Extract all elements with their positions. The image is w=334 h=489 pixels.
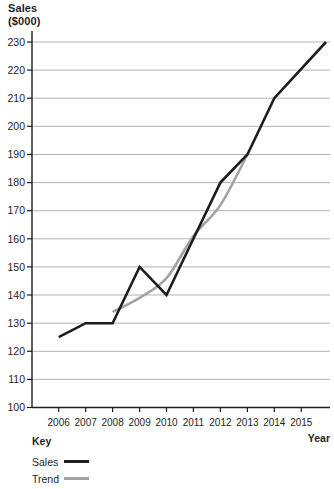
legend-label-trend: Trend — [32, 473, 63, 485]
y-tick-label: 120 — [7, 345, 25, 357]
series-line-sales — [59, 42, 326, 337]
y-tick-label: 110 — [8, 373, 25, 385]
y-tick-label: 140 — [7, 289, 25, 301]
y-tick-label: 170 — [7, 204, 25, 216]
y-tick-label: 130 — [7, 317, 25, 329]
x-tick-label: 2014 — [263, 417, 286, 428]
y-tick-label: 160 — [7, 233, 25, 245]
x-tick-label: 2008 — [101, 417, 124, 428]
y-tick-label: 180 — [7, 176, 25, 188]
legend-title: Key — [32, 435, 89, 447]
x-tick-label: 2007 — [75, 417, 98, 428]
legend-label-sales: Sales — [32, 456, 63, 468]
y-tick-label: 220 — [7, 64, 25, 76]
y-tick-label: 200 — [7, 120, 25, 132]
x-tick-label: 2011 — [183, 417, 205, 428]
legend: Key Sales Trend — [32, 435, 89, 487]
series-line-trend — [113, 155, 248, 312]
x-axis-title: Year — [308, 432, 330, 444]
y-tick-label: 150 — [7, 261, 25, 273]
legend-item-sales: Sales — [32, 453, 89, 470]
legend-item-trend: Trend — [32, 470, 89, 487]
x-tick-label: 2015 — [290, 417, 313, 428]
y-tick-label: 100 — [7, 401, 25, 413]
y-tick-label: 210 — [7, 92, 25, 104]
chart-page: Sales ($000) 100110120130140150160170180… — [0, 0, 334, 489]
x-tick-label: 2010 — [155, 417, 178, 428]
trend-line-swatch — [64, 477, 89, 480]
sales-line-swatch — [64, 460, 89, 463]
sales-trend-chart: 1001101201301401501601701801902002102202… — [0, 0, 334, 489]
x-tick-label: 2012 — [209, 417, 232, 428]
x-tick-label: 2013 — [236, 417, 259, 428]
x-tick-label: 2009 — [128, 417, 151, 428]
x-tick-label: 2006 — [48, 417, 71, 428]
y-tick-label: 190 — [7, 148, 25, 160]
y-tick-label: 230 — [7, 36, 25, 48]
